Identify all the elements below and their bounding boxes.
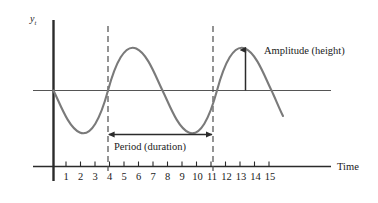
x-tick-label: 2 bbox=[78, 171, 83, 182]
x-axis-label: Time bbox=[337, 161, 359, 172]
x-tick-label: 13 bbox=[236, 171, 247, 182]
x-tick-label: 1 bbox=[63, 171, 68, 182]
x-tick-label: 4 bbox=[107, 171, 113, 182]
x-tick-label: 7 bbox=[150, 171, 155, 182]
x-tick-label: 11 bbox=[207, 171, 217, 182]
period-label: Period (duration) bbox=[114, 141, 187, 153]
x-tick-label: 15 bbox=[265, 171, 276, 182]
x-tick-label: 6 bbox=[136, 171, 141, 182]
amplitude-label: Amplitude (height) bbox=[264, 45, 345, 57]
x-tick-label: 3 bbox=[92, 171, 97, 182]
x-tick-label: 10 bbox=[192, 171, 203, 182]
x-axis-tick-labels: 1 2 3 4 5 6 7 8 9 10 11 12 13 14 15 bbox=[63, 171, 275, 182]
x-tick-label: 12 bbox=[221, 171, 232, 182]
y-axis-label-subscript: t bbox=[34, 19, 36, 26]
x-tick-label: 9 bbox=[179, 171, 184, 182]
x-tick-label: 8 bbox=[165, 171, 170, 182]
x-tick-label: 14 bbox=[250, 171, 261, 182]
waveform-diagram: 1 2 3 4 5 6 7 8 9 10 11 12 13 14 15 yt T… bbox=[0, 0, 378, 203]
figure-background bbox=[0, 0, 378, 203]
x-tick-label: 5 bbox=[121, 171, 126, 182]
